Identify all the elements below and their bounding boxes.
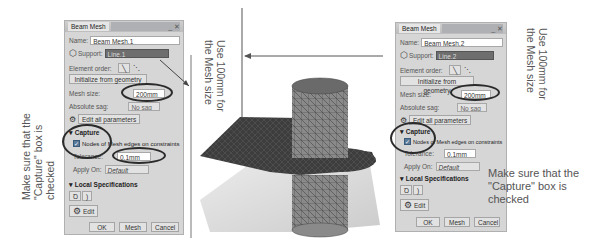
annotation-line: the Mesh size bbox=[525, 28, 537, 100]
tolerance-input[interactable]: 0.1mm bbox=[444, 149, 476, 158]
mesh-size-highlight bbox=[450, 84, 500, 101]
local-specifications-toggle[interactable]: ▾ Local Specifications bbox=[400, 175, 469, 183]
support-cube-icon: ⬡ bbox=[400, 51, 408, 60]
cylinder-lower-mesh bbox=[292, 175, 348, 230]
apply-on-label: Apply On: bbox=[404, 163, 433, 170]
capture-highlight bbox=[390, 122, 436, 154]
dialog-title: Beam Mesh bbox=[399, 24, 440, 33]
right-capture-annotation: Make sure that the "Capture" box is chec… bbox=[488, 167, 579, 206]
annotation-line: checked bbox=[488, 193, 579, 206]
window-controls[interactable]: _ ✕ bbox=[491, 23, 503, 34]
support-field[interactable]: Line.2 bbox=[436, 51, 494, 60]
support-label: Support: bbox=[409, 52, 434, 59]
apply-on-field[interactable]: Default bbox=[436, 162, 480, 171]
dialog-title-bar[interactable]: Beam Mesh _ ✕ bbox=[396, 23, 506, 34]
cancel-button[interactable]: Cancel bbox=[474, 217, 500, 227]
absolute-sag-label: Absolute sag: bbox=[400, 104, 439, 111]
mesh-button[interactable]: Mesh bbox=[444, 217, 470, 227]
annotation-line: "Capture" box is bbox=[488, 180, 579, 193]
annotation-line: Make sure that the bbox=[488, 167, 579, 180]
absolute-sag-input[interactable]: No sag bbox=[457, 103, 487, 112]
local-spec-edit-button[interactable]: ⚙ Edit bbox=[400, 199, 429, 211]
ok-button[interactable]: OK bbox=[416, 217, 440, 227]
cylinder-upper-mesh bbox=[292, 86, 348, 158]
mesh-size-label: Mesh size: bbox=[400, 91, 431, 98]
local-spec-icon-1[interactable]: Ꝺ bbox=[400, 185, 412, 195]
right-mesh-size-annotation: Use 100mm for the Mesh size bbox=[525, 28, 549, 100]
name-label: Name: bbox=[400, 39, 419, 46]
quadratic-element-icon[interactable]: ⋱ bbox=[464, 66, 471, 74]
element-order-label: Element order: bbox=[400, 67, 443, 74]
gear-icon: ⚙ bbox=[404, 201, 412, 210]
linear-element-icon[interactable]: ╲ bbox=[449, 65, 461, 75]
local-spec-icon-2[interactable]: ) bbox=[413, 185, 423, 195]
annotation-line: Use 100mm for bbox=[537, 28, 549, 100]
name-input[interactable]: Beam Mesh.2 bbox=[421, 38, 503, 47]
